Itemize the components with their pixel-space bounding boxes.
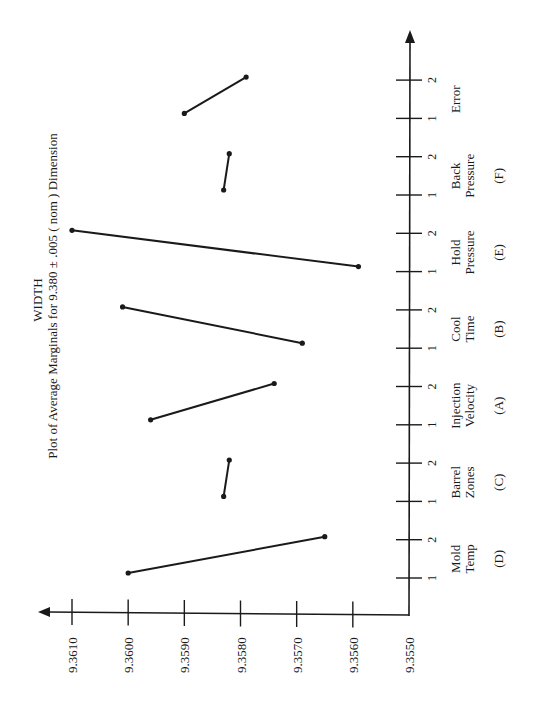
factor-level-label: 2	[425, 384, 439, 390]
marginal-segment	[151, 384, 275, 420]
factor-name-line1: Barrel	[448, 466, 463, 499]
value-axis-ticks: 9.36109.36009.35909.35809.35709.35609.35…	[65, 599, 417, 673]
chart-title: WIDTH	[30, 278, 45, 321]
factor-name-line1: Hold	[448, 239, 463, 266]
factor-level-label: 1	[425, 498, 439, 504]
factor-level-label: 2	[425, 77, 439, 83]
data-point	[148, 417, 153, 422]
marginals-chart: WIDTH Plot of Average Marginals for 9.38…	[0, 0, 535, 725]
factor-code-label: (F)	[491, 168, 506, 184]
data-point	[221, 187, 226, 192]
factor-name-line1: Mold	[448, 544, 463, 573]
factor-code-label: (B)	[491, 320, 506, 337]
factor-code-label: (D)	[491, 550, 506, 568]
factor-level-label: 2	[425, 230, 439, 236]
data-point	[244, 75, 249, 80]
data-point	[69, 228, 74, 233]
marginal-segment	[123, 307, 303, 343]
factor-level-label: 1	[425, 115, 439, 121]
factor-name-line1: Cool	[448, 316, 463, 342]
factor-axis: 12MoldTemp(D)12BarrelZones(C)12Injection…	[396, 30, 506, 616]
chart-subtitle: Plot of Average Marginals for 9.380 ± .0…	[45, 133, 60, 459]
data-point	[300, 341, 305, 346]
title-group: WIDTH Plot of Average Marginals for 9.38…	[30, 133, 60, 459]
factor-level-label: 1	[425, 422, 439, 428]
factor-name-line2: Time	[462, 315, 477, 342]
data-point	[322, 534, 327, 539]
value-tick-label: 9.3550	[402, 637, 417, 673]
value-axis: 9.36109.36009.35909.35809.35709.35609.35…	[38, 599, 417, 673]
factor-name-line2: Pressure	[462, 154, 477, 198]
data-point	[227, 458, 232, 463]
value-tick-label: 9.3580	[234, 637, 249, 673]
value-tick-label: 9.3600	[121, 637, 136, 673]
data-point	[120, 304, 125, 309]
data-point	[182, 111, 187, 116]
marginal-segment	[224, 460, 230, 496]
factor-level-label: 2	[425, 307, 439, 313]
value-tick-label: 9.3570	[290, 637, 305, 673]
value-tick-label: 9.3560	[346, 637, 361, 673]
data-point	[356, 264, 361, 269]
factor-code-label: (C)	[491, 474, 506, 491]
marginal-segments	[69, 75, 361, 576]
value-axis-arrow-icon	[38, 607, 50, 617]
factor-code-label: (A)	[491, 397, 506, 415]
value-axis-line	[48, 612, 409, 615]
factor-name-line1: Back	[448, 162, 463, 189]
factor-axis-arrow-icon	[405, 30, 415, 43]
factor-name-line1: Injection	[448, 382, 463, 429]
value-tick-label: 9.3610	[65, 637, 80, 673]
factor-level-label: 1	[425, 269, 439, 275]
factor-name-line2: Pressure	[462, 230, 477, 274]
factor-level-label: 2	[425, 537, 439, 543]
factor-name-line1: Error	[448, 85, 463, 113]
factor-level-label: 1	[425, 192, 439, 198]
factor-name-line2: Temp	[462, 544, 477, 573]
factor-axis-ticks: 12MoldTemp(D)12BarrelZones(C)12Injection…	[396, 77, 506, 581]
data-point	[126, 570, 131, 575]
factor-code-label: (E)	[491, 244, 506, 261]
factor-level-label: 2	[425, 460, 439, 466]
factor-name-line2: Zones	[462, 466, 477, 498]
data-point	[272, 381, 277, 386]
marginal-segment	[224, 154, 230, 190]
factor-level-label: 2	[425, 154, 439, 160]
factor-name-line2: Velocity	[462, 383, 477, 427]
value-tick-label: 9.3590	[177, 637, 192, 673]
data-point	[221, 494, 226, 499]
marginal-segment	[184, 77, 246, 113]
factor-level-label: 1	[425, 345, 439, 351]
factor-level-label: 1	[425, 575, 439, 581]
marginal-segment	[72, 230, 358, 266]
factor-axis-line	[409, 42, 410, 616]
chart-canvas: WIDTH Plot of Average Marginals for 9.38…	[0, 0, 535, 725]
data-point	[227, 151, 232, 156]
marginal-segment	[128, 537, 325, 573]
